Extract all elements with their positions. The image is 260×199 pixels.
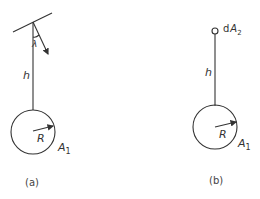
caption-a: (a)	[25, 177, 39, 188]
angle-arc	[33, 35, 39, 37]
height-label-b: h	[205, 66, 212, 79]
radius-arrow-b	[215, 122, 236, 127]
caption-b: (b)	[209, 175, 223, 186]
height-label-a: h	[23, 69, 30, 82]
area-label-b: A1	[237, 137, 251, 152]
area-element-dot	[212, 28, 218, 34]
radius-label-a: R	[37, 132, 45, 145]
normal-arrow	[33, 22, 48, 54]
sphere-a	[11, 110, 55, 154]
area-label-a: A1	[57, 141, 71, 156]
panel-a: λ h R A1 (a)	[11, 13, 71, 188]
diagram-canvas: λ h R A1 (a) dA2 h R A1 (b)	[0, 0, 260, 199]
panel-b: dA2 h R A1 (b)	[193, 23, 251, 186]
radius-arrow-a	[33, 126, 53, 131]
element-label: dA2	[223, 23, 242, 37]
angle-label: λ	[31, 39, 37, 49]
radius-label-b: R	[219, 128, 227, 141]
